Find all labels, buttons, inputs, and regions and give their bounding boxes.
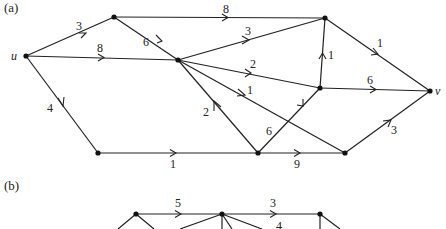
- arrow-icon: [237, 89, 245, 96]
- node-u: [23, 53, 28, 58]
- edge-weight: 3: [245, 24, 251, 38]
- arrow-icon: [79, 33, 86, 38]
- node-b-2: [219, 211, 224, 216]
- arrow-icon: [297, 99, 303, 106]
- graph-b: 5 3 4: [118, 196, 340, 229]
- node-E: [95, 150, 100, 155]
- edge-weight: 6: [266, 124, 272, 138]
- edge-C-B: [178, 18, 325, 60]
- network-diagram: (a) (b) 3 8 4 8 6 3 2 1: [0, 0, 446, 229]
- edge-b-6: [222, 214, 262, 229]
- edge-weight: 1: [170, 157, 176, 171]
- edge-weight: 4: [276, 219, 282, 229]
- edge-weight: 2: [203, 105, 209, 119]
- arrow-icon: [58, 97, 64, 106]
- edge-weight: 9: [294, 157, 300, 171]
- edge-A-B: [114, 17, 325, 18]
- edge-weight: 8: [97, 41, 103, 55]
- node-v: [427, 88, 432, 93]
- node-b-1: [133, 211, 138, 216]
- node-G: [342, 150, 347, 155]
- edge-weight: 1: [377, 36, 383, 50]
- edge-b-1: [118, 214, 136, 229]
- node-A: [111, 14, 116, 19]
- edge-weight: 5: [175, 196, 181, 210]
- node-D: [317, 85, 322, 90]
- edge-weight: 1: [247, 83, 253, 97]
- node-label-u: u: [11, 49, 17, 63]
- edge-b-2: [136, 214, 154, 229]
- edge-b-3: [180, 214, 222, 229]
- node-C: [175, 57, 180, 62]
- edge-weight: 2: [250, 57, 256, 71]
- part-b-label: (b): [4, 178, 19, 193]
- edge-weight: 8: [223, 2, 229, 16]
- edge-F-D: [258, 88, 320, 153]
- edge-weight: 6: [367, 73, 373, 87]
- edge-weight: 3: [391, 123, 397, 137]
- edge-weight: 3: [76, 19, 82, 33]
- edge-b-7: [320, 214, 340, 229]
- edge-G-v: [345, 91, 430, 153]
- node-F: [255, 150, 260, 155]
- edge-weight: 6: [143, 35, 149, 49]
- part-a-label: (a): [4, 0, 18, 15]
- arrow-icon: [156, 35, 162, 43]
- node-b-3: [317, 211, 322, 216]
- node-B: [322, 15, 327, 20]
- edge-weight: 3: [270, 196, 276, 210]
- edge-weight: 1: [328, 48, 334, 62]
- edge-weight: 4: [47, 101, 53, 115]
- graph-a-edges: 3 8 4 8 6 3 2 1 2 1: [26, 2, 430, 171]
- node-label-v: v: [435, 84, 441, 98]
